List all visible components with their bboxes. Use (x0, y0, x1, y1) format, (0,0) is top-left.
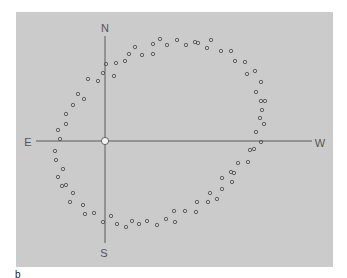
data-point (71, 103, 74, 106)
data-point (92, 211, 95, 214)
data-point (248, 148, 251, 151)
data-point (263, 99, 266, 102)
data-point (137, 222, 140, 225)
data-point (252, 147, 255, 150)
data-point (96, 79, 99, 82)
data-point (253, 69, 256, 72)
data-point (164, 217, 167, 220)
data-point (259, 80, 262, 83)
north-label: N (101, 23, 109, 34)
data-point (115, 222, 118, 225)
origin-marker (101, 137, 108, 144)
data-point (151, 42, 154, 45)
data-point (133, 45, 136, 48)
east-label: E (24, 137, 31, 148)
data-point (205, 46, 208, 49)
data-point (208, 191, 211, 194)
data-point (243, 60, 246, 63)
data-point (158, 37, 161, 40)
data-point (56, 175, 59, 178)
data-point (155, 223, 158, 226)
data-point (124, 225, 127, 228)
data-points (53, 37, 266, 228)
data-point (209, 38, 212, 41)
south-label: S (100, 248, 107, 259)
data-point (230, 180, 233, 183)
data-point (184, 43, 187, 46)
data-point (114, 61, 117, 64)
data-point (258, 116, 261, 119)
data-point (123, 59, 126, 62)
data-point (82, 97, 85, 100)
data-point (76, 92, 79, 95)
data-point (195, 200, 198, 203)
data-point (220, 187, 223, 190)
data-point (215, 197, 218, 200)
data-point (194, 210, 197, 213)
data-point (71, 191, 74, 194)
data-point (140, 53, 143, 56)
data-point (175, 38, 178, 41)
data-point (101, 220, 104, 223)
compass-scatter-plot (0, 0, 347, 278)
data-point (81, 203, 84, 206)
data-point (86, 77, 89, 80)
data-point (254, 130, 257, 133)
data-point (130, 219, 133, 222)
data-point (109, 214, 112, 217)
data-point (145, 219, 148, 222)
data-point (229, 49, 232, 52)
data-point (245, 72, 248, 75)
panel-label: b (15, 270, 21, 278)
west-label: W (315, 138, 325, 149)
data-point (127, 52, 130, 55)
data-point (183, 209, 186, 212)
data-point (64, 112, 67, 115)
data-point (54, 158, 57, 161)
data-point (53, 149, 56, 152)
data-point (101, 71, 104, 74)
data-point (165, 43, 168, 46)
data-point (61, 167, 64, 170)
data-point (68, 200, 71, 203)
data-point (56, 128, 59, 131)
data-point (58, 137, 61, 140)
data-point (173, 220, 176, 223)
data-point (259, 99, 262, 102)
data-point (236, 161, 239, 164)
data-point (64, 183, 67, 186)
data-point (220, 176, 223, 179)
data-point (60, 184, 63, 187)
data-point (151, 52, 154, 55)
data-point (219, 49, 222, 52)
data-point (206, 200, 209, 203)
data-point (260, 108, 263, 111)
data-point (112, 74, 115, 77)
data-point (233, 59, 236, 62)
data-point (83, 212, 86, 215)
data-point (172, 209, 175, 212)
data-point (254, 90, 257, 93)
data-point (246, 160, 249, 163)
data-point (64, 122, 67, 125)
data-point (262, 122, 265, 125)
